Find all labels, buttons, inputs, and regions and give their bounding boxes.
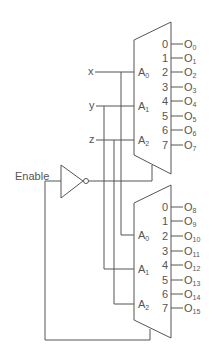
wire-x-branch bbox=[121, 72, 134, 235]
svg-text:5: 5 bbox=[162, 110, 168, 122]
decoder-diagram: x y z Enable A0 A1 A2 0 1 2 3 4 5 6 7 O0 bbox=[0, 0, 214, 360]
svg-text:O12: O12 bbox=[184, 259, 200, 272]
svg-text:O11: O11 bbox=[184, 245, 200, 258]
svg-text:0: 0 bbox=[162, 38, 168, 50]
svg-text:O2: O2 bbox=[184, 66, 197, 79]
svg-text:O7: O7 bbox=[184, 139, 197, 152]
svg-text:O1: O1 bbox=[184, 52, 197, 65]
svg-text:O10: O10 bbox=[184, 230, 200, 243]
inverter-bubble bbox=[84, 179, 89, 184]
svg-text:O8: O8 bbox=[184, 201, 197, 214]
svg-text:7: 7 bbox=[162, 139, 168, 151]
input-label-y: y bbox=[89, 99, 95, 111]
svg-text:7: 7 bbox=[162, 302, 168, 314]
inverter-gate bbox=[61, 165, 83, 198]
svg-text:O3: O3 bbox=[184, 81, 197, 94]
svg-text:4: 4 bbox=[162, 259, 168, 271]
svg-text:O15: O15 bbox=[184, 302, 200, 315]
svg-text:1: 1 bbox=[162, 215, 168, 227]
input-label-enable: Enable bbox=[15, 170, 49, 182]
input-label-z: z bbox=[89, 133, 95, 145]
top-decoder-outputs: 0 1 2 3 4 5 6 7 O0 O1 O2 O3 O4 O5 O6 O7 bbox=[162, 38, 197, 152]
svg-text:O4: O4 bbox=[184, 95, 197, 108]
svg-text:4: 4 bbox=[162, 95, 168, 107]
svg-text:6: 6 bbox=[162, 288, 168, 300]
svg-text:1: 1 bbox=[162, 52, 168, 64]
svg-text:O9: O9 bbox=[184, 215, 197, 228]
svg-text:2: 2 bbox=[162, 230, 168, 242]
svg-text:2: 2 bbox=[162, 66, 168, 78]
wire-z-branch bbox=[114, 140, 134, 304]
svg-text:O6: O6 bbox=[184, 124, 197, 137]
svg-text:5: 5 bbox=[162, 274, 168, 286]
svg-text:O14: O14 bbox=[184, 288, 200, 301]
svg-text:3: 3 bbox=[162, 245, 168, 257]
svg-text:O13: O13 bbox=[184, 274, 200, 287]
wire-y-branch bbox=[104, 106, 134, 269]
svg-text:0: 0 bbox=[162, 201, 168, 213]
input-label-x: x bbox=[88, 65, 94, 77]
svg-text:O0: O0 bbox=[184, 38, 197, 51]
svg-text:O5: O5 bbox=[184, 110, 197, 123]
svg-text:6: 6 bbox=[162, 124, 168, 136]
svg-text:3: 3 bbox=[162, 81, 168, 93]
